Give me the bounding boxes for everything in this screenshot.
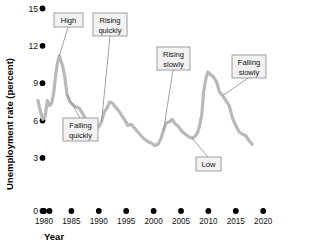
y-tick-label: 3: [33, 153, 38, 163]
callout-label: slowly: [163, 60, 184, 69]
callout-label: High: [61, 16, 77, 25]
x-tick-dot: [151, 208, 157, 214]
x-tick-label: 2010: [199, 217, 218, 226]
x-tick-dot: [123, 208, 129, 214]
x-tick-dot: [178, 208, 184, 214]
callout-label: Falling: [69, 121, 91, 130]
y-axis-title: Unemployment rate (percent): [4, 58, 15, 190]
y-tick-dot: [40, 6, 46, 12]
callout-leader-line: [59, 27, 68, 56]
callout-label: slowly: [239, 68, 260, 77]
x-tick-dot: [233, 208, 239, 214]
x-axis-title: Year: [44, 231, 64, 242]
y-tick-dot: [40, 43, 46, 49]
y-tick-label: 12: [28, 41, 38, 51]
callout-label: quickly: [69, 131, 92, 140]
y-tick-dot: [40, 80, 46, 86]
unemployment-rate-chart: Unemployment rate (percent) Year 1512963…: [0, 0, 316, 245]
callout-label: Low: [202, 160, 216, 169]
chart-canvas: Unemployment rate (percent) Year 1512963…: [0, 0, 316, 245]
x-tick-label: 1995: [117, 217, 136, 226]
x-axis-ticks: 198019851990199520002005201020152020: [35, 208, 273, 226]
y-tick-label: 9: [33, 78, 38, 88]
callout-label: Rising: [99, 16, 120, 25]
callout-label: quickly: [98, 26, 121, 35]
y-tick-label: 15: [28, 4, 38, 14]
x-tick-label: 2020: [254, 217, 273, 226]
x-tick-label: 2000: [144, 217, 163, 226]
x-tick-label: 1990: [90, 217, 109, 226]
y-tick-label: 0: [33, 206, 38, 216]
x-tick-label: 2015: [227, 217, 246, 226]
callout-leader-line: [192, 138, 208, 157]
y-tick-dot: [40, 155, 46, 161]
x-tick-dot: [41, 208, 47, 214]
x-tick-label: 1980: [35, 217, 54, 226]
x-tick-label: 1985: [62, 217, 81, 226]
x-tick-dot: [260, 208, 266, 214]
x-axis-origin-dot: [47, 208, 53, 214]
x-tick-label: 2005: [172, 217, 191, 226]
callout-leader-line: [223, 78, 248, 96]
x-tick-dot: [206, 208, 212, 214]
callout-label: Rising: [163, 50, 184, 59]
x-tick-dot: [69, 208, 75, 214]
x-tick-dot: [96, 208, 102, 214]
callout-group: HighRisingquicklyRisingslowlyFallingslow…: [54, 13, 266, 171]
y-axis-ticks: 15129630: [28, 4, 45, 217]
y-tick-label: 6: [33, 116, 38, 126]
callout-label: Falling: [238, 58, 260, 67]
